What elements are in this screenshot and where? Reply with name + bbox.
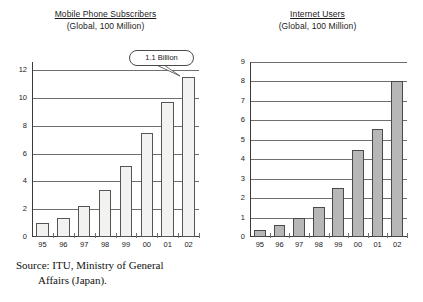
chart-subtitle-mobile-phone-subscribers: (Global, 100 Million) [0, 20, 211, 32]
y-axis-tick-label: 12 [3, 66, 27, 74]
bar-slot [250, 62, 270, 237]
x-axis-tick-label-96: 96 [270, 240, 290, 249]
bar-95 [254, 230, 266, 237]
y-axis-tick-label: 9 [221, 58, 245, 66]
x-axis-tick-label-02: 02 [178, 240, 199, 249]
bar-98 [313, 207, 325, 237]
x-axis-labels-right: 9596979899000102 [250, 240, 407, 249]
source-note-left-line2: Affairs (Japan). [16, 273, 211, 288]
y-axis-tick-label: 6 [3, 150, 27, 158]
bar-slot [348, 62, 368, 237]
bar-99 [332, 188, 344, 237]
bar-02 [182, 77, 195, 237]
bar-99 [120, 166, 133, 237]
bar-slot [32, 62, 53, 237]
figure-two-bar-charts: Mobile Phone Subscribers (Global, 100 Mi… [0, 0, 423, 302]
x-axis-tick-label-98: 98 [95, 240, 116, 249]
x-axis-tick-label-00: 00 [348, 240, 368, 249]
y-axis-tick-label: 10 [3, 94, 27, 102]
bar-95 [36, 223, 49, 237]
bar-slot [157, 62, 178, 237]
bar-slot [136, 62, 157, 237]
bar-96 [274, 225, 286, 237]
chart-header-left: Mobile Phone Subscribers (Global, 100 Mi… [0, 9, 211, 32]
y-axis-tick-label: 6 [221, 116, 245, 124]
x-axis-tick-label-01: 01 [368, 240, 388, 249]
bar-97 [78, 206, 91, 237]
x-axis-tick-label-95: 95 [250, 240, 270, 249]
bar-slot [289, 62, 309, 237]
y-axis-tick-label: 8 [221, 77, 245, 85]
bar-00 [352, 150, 364, 238]
y-axis-tick-label: 0 [3, 233, 27, 241]
page-title-internet-users: Internet Users [212, 9, 423, 20]
x-axis-tick-label-95: 95 [32, 240, 53, 249]
chart-header-right: Internet Users (Global, 100 Million) [212, 9, 423, 32]
y-axis-tick-label: 4 [221, 155, 245, 163]
bar-slot [178, 62, 199, 237]
bar-slot [368, 62, 388, 237]
x-axis-tick-label-00: 00 [136, 240, 157, 249]
bar-02 [391, 81, 403, 237]
bar-series [250, 62, 407, 237]
y-axis-tick-label: 2 [221, 194, 245, 202]
page-title-mobile-phone-subscribers: Mobile Phone Subscribers [0, 9, 211, 20]
bar-slot [387, 62, 407, 237]
annotation-callout-1-1-billion: 1.1 Billion [129, 50, 194, 66]
bar-01 [161, 102, 174, 237]
x-axis-labels-left: 9596979899000102 [32, 240, 199, 249]
x-axis-tickmark [407, 233, 408, 238]
bar-slot [53, 62, 74, 237]
bar-98 [99, 190, 112, 237]
y-axis-tick-label: 5 [221, 136, 245, 144]
y-axis-tick-label: 0 [221, 233, 245, 241]
plot-area-internet-users: 0123456789 [250, 62, 407, 237]
y-axis-tick-label: 1 [221, 214, 245, 222]
x-axis-tick-label-99: 99 [116, 240, 137, 249]
x-axis-tick-label-96: 96 [53, 240, 74, 249]
bar-slot [270, 62, 290, 237]
y-axis-tick-label: 4 [3, 177, 27, 185]
bar-01 [372, 129, 384, 237]
bar-slot [309, 62, 329, 237]
bar-96 [57, 218, 70, 237]
bar-slot [116, 62, 137, 237]
x-axis-tick-label-98: 98 [309, 240, 329, 249]
x-axis-tick-label-97: 97 [74, 240, 95, 249]
x-axis-tick-label-01: 01 [157, 240, 178, 249]
y-axis-tick-label: 2 [3, 205, 27, 213]
bar-00 [141, 133, 154, 237]
chart-subtitle-internet-users: (Global, 100 Million) [212, 20, 423, 32]
bar-slot [95, 62, 116, 237]
x-axis-tick-label-97: 97 [289, 240, 309, 249]
y-axis-tick-label: 7 [221, 97, 245, 105]
y-axis-tick-label: 8 [3, 122, 27, 130]
source-note-left-line1: Source: ITU, Ministry of General [16, 258, 211, 273]
y-axis-tick-label: 3 [221, 175, 245, 183]
bar-slot [74, 62, 95, 237]
bar-slot [329, 62, 349, 237]
x-axis-tickmark [199, 233, 200, 238]
plot-area-mobile-phone-subscribers: 024681012 [32, 62, 199, 237]
source-note-left: Source: ITU, Ministry of General Affairs… [16, 258, 211, 288]
bar-97 [293, 218, 305, 237]
x-axis-tick-label-99: 99 [329, 240, 349, 249]
x-axis-tick-label-02: 02 [387, 240, 407, 249]
bar-series [32, 62, 199, 237]
